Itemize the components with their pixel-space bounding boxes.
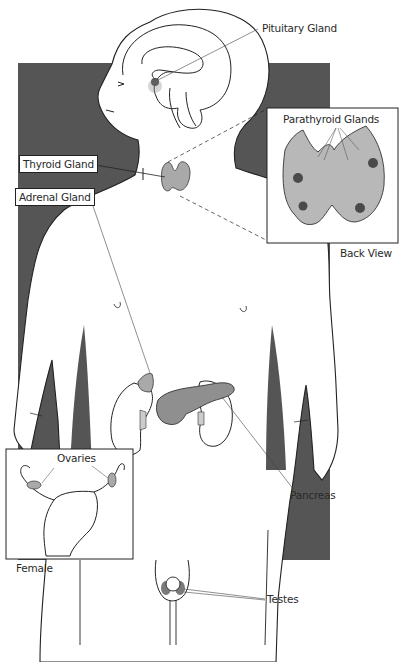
parathyroid-2 [299,202,308,211]
label-ovaries: Ovaries [57,452,96,464]
endocrine-diagram [0,0,401,662]
parathyroid-3 [368,158,378,168]
label-pancreas: Pancreas [290,489,336,501]
label-back-view: Back View [340,247,392,259]
ovary-left [27,481,41,489]
label-female: Female [16,562,53,574]
ureter-left [140,410,146,430]
penis-head [166,577,180,591]
parathyroid-1 [293,173,303,183]
label-pituitary-gland: Pituitary Gland [262,22,337,34]
ureter-right [198,412,204,425]
pituitary-halo [148,79,162,93]
ovary-right [108,473,116,487]
label-parathyroid-glands: Parathyroid Glands [283,113,379,125]
label-thyroid-gland: Thyroid Gland [19,155,98,173]
label-testes: Testes [267,593,298,605]
label-adrenal-gland: Adrenal Gland [15,188,95,206]
parathyroid-4 [355,203,365,213]
